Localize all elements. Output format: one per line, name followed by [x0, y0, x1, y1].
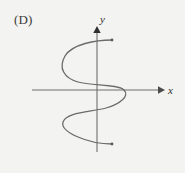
graph-canvas: x y [0, 0, 185, 173]
figure-panel: (D) x y [0, 0, 185, 173]
y-axis [93, 26, 100, 152]
x-axis-arrowhead-icon [158, 86, 165, 94]
curve-endpoint-top [111, 39, 114, 42]
x-axis-label: x [167, 84, 173, 96]
y-axis-arrowhead-icon [93, 26, 100, 33]
x-axis [32, 86, 165, 94]
curve-endpoint-bottom [111, 143, 114, 146]
y-axis-label: y [99, 13, 105, 25]
sine-curve [62, 40, 126, 144]
